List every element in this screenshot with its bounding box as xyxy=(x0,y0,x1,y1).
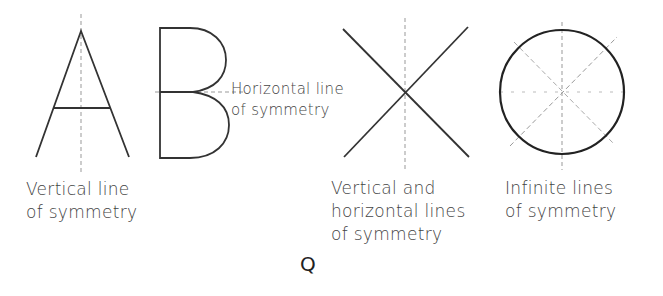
caption-o: Infinite lines of symmetry xyxy=(505,177,616,223)
caption-b-line1: Horizontal line xyxy=(231,79,344,100)
caption-a-line2: of symmetry xyxy=(26,201,137,224)
caption-a-line1: Vertical line xyxy=(26,178,137,201)
circle-o-figure xyxy=(500,22,632,170)
caption-x-line1: Vertical and xyxy=(331,177,466,200)
caption-b-line2: of symmetry xyxy=(231,100,344,121)
a-legs xyxy=(36,31,129,157)
caption-o-line1: Infinite lines xyxy=(505,177,616,200)
caption-b: Horizontal line of symmetry xyxy=(231,79,344,121)
caption-x: Vertical and horizontal lines of symmetr… xyxy=(331,177,466,246)
letter-x-figure xyxy=(343,18,469,172)
b-outline xyxy=(160,28,229,158)
caption-a: Vertical line of symmetry xyxy=(26,178,137,224)
symmetry-diagram xyxy=(0,0,663,296)
caption-o-line2: of symmetry xyxy=(505,200,616,223)
caption-x-line3: of symmetry xyxy=(331,223,466,246)
caption-x-line2: horizontal lines xyxy=(331,200,466,223)
letter-a-figure xyxy=(36,14,129,172)
figure-label: Q xyxy=(300,252,316,276)
o-diagonal-symmetry-line-2 xyxy=(514,42,614,144)
